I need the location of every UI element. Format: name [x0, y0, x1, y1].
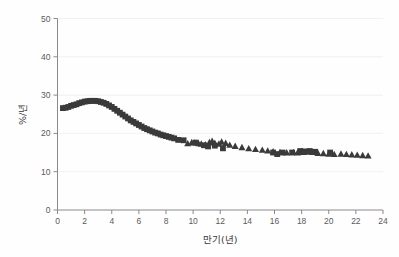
- y-axis-title: %/년: [17, 104, 28, 125]
- data-point-square: [181, 137, 187, 143]
- data-point-square: [175, 137, 181, 143]
- x-tick-label: 22: [351, 216, 361, 226]
- y-tick-label: 30: [41, 90, 51, 100]
- data-point-triangle: [348, 151, 355, 157]
- y-tick-label: 20: [41, 128, 51, 138]
- y-tick-label: 0: [46, 205, 51, 215]
- x-tick-label: 14: [243, 216, 253, 226]
- data-point-triangle: [354, 151, 361, 157]
- chart-figure: 01020304050024681012141618202224%/년만기(년): [0, 0, 399, 257]
- x-axis-title: 만기(년): [203, 234, 237, 245]
- data-point-triangle: [232, 143, 239, 149]
- scatter-chart: 01020304050024681012141618202224%/년만기(년): [0, 0, 399, 257]
- data-point-triangle: [245, 145, 252, 151]
- data-point-triangle: [343, 151, 350, 157]
- data-point-triangle: [359, 152, 366, 158]
- x-tick-label: 8: [164, 216, 169, 226]
- x-tick-label: 0: [55, 216, 60, 226]
- y-tick-label: 10: [41, 167, 51, 177]
- data-point-triangle: [252, 146, 259, 152]
- x-axis: 024681012141618202224: [55, 210, 388, 226]
- y-axis: 01020304050: [41, 14, 57, 216]
- data-point-triangle: [365, 152, 372, 158]
- x-tick-label: 12: [216, 216, 226, 226]
- x-tick-label: 16: [270, 216, 280, 226]
- x-tick-label: 6: [137, 216, 142, 226]
- data-point-triangle: [320, 150, 327, 156]
- x-tick-label: 20: [324, 216, 334, 226]
- x-tick-label: 18: [297, 216, 307, 226]
- axis-spines: [58, 19, 384, 211]
- data-point-triangle: [238, 144, 245, 150]
- data-point-triangle: [264, 147, 271, 153]
- x-tick-label: 24: [378, 216, 388, 226]
- series-square-series: [60, 98, 333, 157]
- x-tick-label: 2: [82, 216, 87, 226]
- y-tick-label: 40: [41, 52, 51, 62]
- x-tick-label: 4: [109, 216, 114, 226]
- y-tick-label: 50: [41, 14, 51, 24]
- data-point-triangle: [259, 146, 266, 152]
- data-point-triangle: [337, 150, 344, 156]
- x-tick-label: 10: [188, 216, 198, 226]
